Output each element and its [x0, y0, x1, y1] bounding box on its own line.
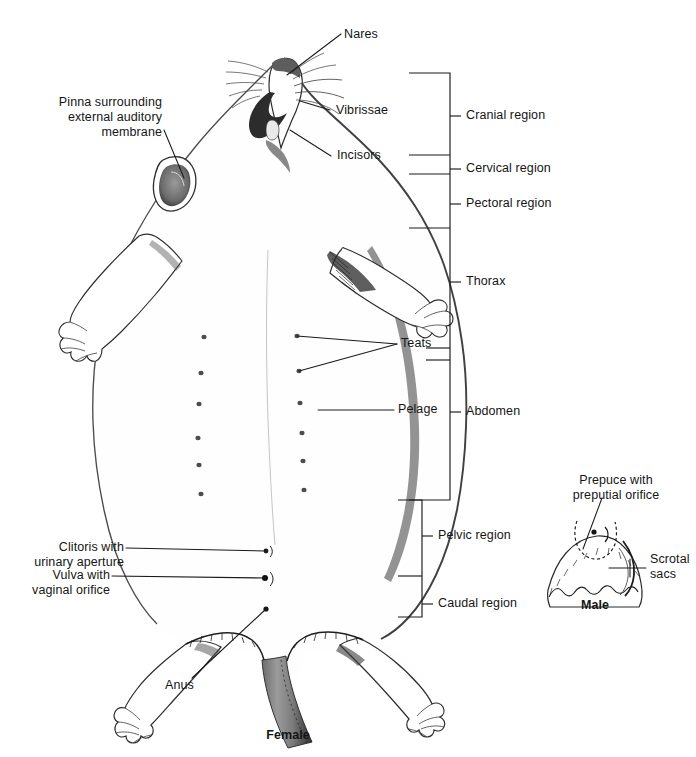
label-scrotal-line1: Scrotal [650, 552, 690, 568]
label-prepuce-line1: Prepuce with [546, 473, 686, 489]
label-pinna-line1: Pinna surrounding [24, 95, 162, 111]
caption-female: Female [228, 728, 348, 744]
label-incisors: Incisors [337, 148, 381, 164]
label-pinna-line2: external auditory [24, 110, 162, 126]
label-anus: Anus [165, 678, 194, 694]
label-scrotal-line2: sacs [650, 567, 676, 583]
region-label-pelvic: Pelvic region [438, 528, 511, 544]
label-nares: Nares [344, 27, 378, 43]
region-label-abdomen: Abdomen [466, 404, 520, 420]
region-label-cervical: Cervical region [466, 161, 551, 177]
caption-male: Male [545, 598, 645, 614]
label-vibrissae: Vibrissae [336, 103, 388, 119]
label-vulva-line1: Vulva with [4, 568, 110, 584]
region-label-thorax: Thorax [466, 274, 506, 290]
region-label-cranial: Cranial region [466, 108, 545, 124]
label-clitoris-line1: Clitoris with [4, 540, 124, 556]
label-pinna-line3: membrane [24, 125, 162, 141]
region-label-pectoral: Pectoral region [466, 196, 552, 212]
male-rat-drawing [548, 521, 642, 607]
label-prepuce-line2: preputial orifice [546, 488, 686, 504]
label-teats: Teats [401, 336, 431, 352]
rat-incisor-shape [266, 120, 279, 140]
leader-nares [287, 34, 341, 75]
preputial-orifice-dot [591, 529, 596, 534]
label-vulva-line2: vaginal orifice [4, 583, 110, 599]
female-rat-drawing [59, 53, 466, 748]
label-pelage: Pelage [398, 402, 438, 418]
region-label-caudal: Caudal region [438, 596, 517, 612]
anatomy-figure: Nares Vibrissae Incisors Pinna surroundi… [0, 0, 696, 757]
